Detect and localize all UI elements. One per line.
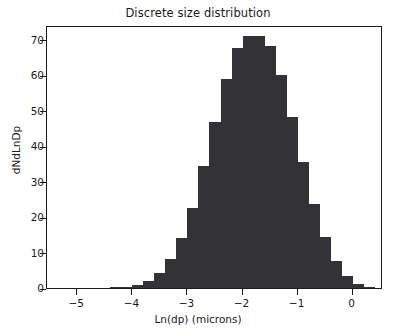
histogram-bar — [320, 237, 331, 288]
x-axis-tick — [186, 289, 187, 295]
x-axis-tick — [352, 289, 353, 295]
x-axis-tick-label: −2 — [222, 297, 262, 309]
histogram-bar — [353, 284, 364, 288]
y-axis-tick-label: 70 — [31, 34, 44, 46]
histogram-bar — [143, 281, 154, 288]
histogram-bar — [176, 238, 187, 288]
histogram-bar — [187, 208, 198, 288]
y-axis-tick-label: 50 — [31, 105, 44, 117]
histogram-bar — [154, 273, 165, 288]
y-axis-tick-label: 30 — [31, 176, 44, 188]
histogram-bar — [209, 122, 220, 288]
histogram-bar — [364, 287, 375, 288]
y-axis-tick-label: 20 — [31, 211, 44, 223]
x-axis-tick — [297, 289, 298, 295]
histogram-bars — [47, 27, 381, 288]
x-axis-tick-label: −4 — [111, 297, 151, 309]
chart-title: Discrete size distribution — [0, 6, 396, 20]
histogram-bar — [309, 204, 320, 288]
histogram-bar — [287, 117, 298, 288]
x-axis-tick — [131, 289, 132, 295]
histogram-bar — [298, 162, 309, 288]
histogram-bar — [243, 36, 254, 288]
y-axis-label: dNdLnDp — [10, 110, 22, 190]
histogram-bar — [121, 287, 132, 288]
histogram-bar — [110, 287, 121, 288]
x-axis-label: Ln(dp) (microns) — [0, 313, 396, 325]
x-axis-tick — [242, 289, 243, 295]
x-axis-tick-label: −1 — [277, 297, 317, 309]
y-axis-tick-label: 0 — [37, 282, 44, 294]
y-axis-tick-label: 10 — [31, 247, 44, 259]
histogram-bar — [165, 259, 176, 288]
plot-area — [46, 26, 382, 289]
histogram-bar — [198, 166, 209, 288]
histogram-bar — [265, 46, 276, 288]
histogram-bar — [276, 75, 287, 288]
chart-figure: Discrete size distribution dNdLnDp Ln(dp… — [0, 0, 396, 334]
histogram-bar — [254, 36, 265, 288]
x-axis-tick-label: −5 — [56, 297, 96, 309]
x-axis-tick — [76, 289, 77, 295]
x-axis-tick-label: 0 — [332, 297, 372, 309]
y-axis-tick-label: 60 — [31, 69, 44, 81]
x-axis-tick-label: −3 — [166, 297, 206, 309]
y-axis-tick-label: 40 — [31, 140, 44, 152]
histogram-bar — [342, 276, 353, 288]
histogram-bar — [232, 48, 243, 288]
histogram-bar — [132, 285, 143, 288]
histogram-bar — [221, 79, 232, 288]
histogram-bar — [331, 261, 342, 288]
